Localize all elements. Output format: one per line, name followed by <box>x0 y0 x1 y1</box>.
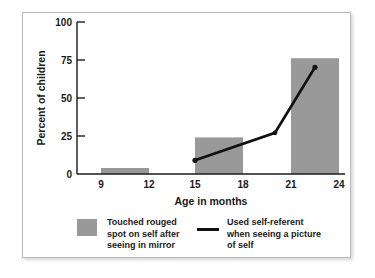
bar-series <box>101 58 339 174</box>
x-tick-label-9: 9 <box>98 179 104 190</box>
bar-9-12 <box>101 168 149 174</box>
x-tick-label-24: 24 <box>333 179 345 190</box>
y-tick-label-25: 25 <box>61 131 73 142</box>
y-axis: 100 75 50 25 0 Percent of children <box>35 17 85 180</box>
line-point-22 <box>312 65 317 70</box>
y-tick-label-0: 0 <box>66 169 72 180</box>
x-axis: 9 12 15 18 21 24 Age in months <box>77 174 345 207</box>
legend-bar-label: Touched rouged spot on self after seeing… <box>107 217 202 252</box>
x-tick-label-15: 15 <box>189 179 201 190</box>
x-axis-title: Age in months <box>175 195 248 207</box>
line-point-15 <box>192 158 197 163</box>
legend-line-label: Used self-referent when seeing a picture… <box>227 217 342 252</box>
line-point-20 <box>273 130 278 135</box>
legend-line-swatch <box>197 228 219 231</box>
bar-15-18 <box>195 137 243 174</box>
y-tick-label-50: 50 <box>61 93 73 104</box>
bar-21-24 <box>291 58 339 174</box>
legend-bar-swatch <box>77 219 97 236</box>
x-tick-label-21: 21 <box>285 179 297 190</box>
y-tick-label-100: 100 <box>55 17 72 28</box>
figure-frame: 100 75 50 25 0 Percent of children 9 12 … <box>22 12 351 258</box>
x-tick-label-18: 18 <box>237 179 249 190</box>
x-tick-label-12: 12 <box>143 179 155 190</box>
y-tick-label-75: 75 <box>61 55 73 66</box>
y-axis-title: Percent of children <box>35 50 47 145</box>
